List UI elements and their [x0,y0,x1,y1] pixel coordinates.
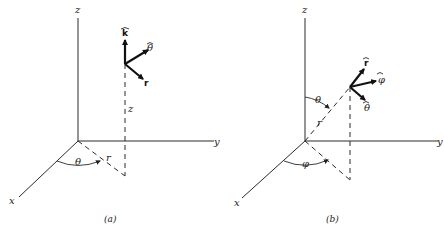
caption-b: (b) [326,214,339,224]
theta-hat-vector [125,50,148,64]
coordinate-diagram: z y x k θ r z r θ (a) z y x r φ θ θ [0,0,444,230]
k-hat-label: k [122,28,129,38]
caption-a: (a) [104,214,117,224]
x-axis-label: x [9,195,15,206]
panel-a: z y x k θ r z r θ (a) [9,4,220,224]
radius-r-label: r [317,117,323,128]
azimuth-phi-label: φ [302,158,309,169]
x-axis [242,141,305,198]
z-axis-label: z [74,4,81,15]
height-z-label: z [127,103,134,114]
polar-theta-label: θ [315,94,321,105]
radius-r-label: r [106,152,112,163]
phi-hat-label: φ [378,74,385,85]
theta-hat-label: θ [364,102,370,113]
radius-line [305,87,350,141]
theta-hat-vector [350,87,365,100]
panel-b: z y x r φ θ θ r φ (b) [234,4,443,224]
theta-angle-label: θ [75,156,81,167]
r-vector [125,64,143,79]
y-axis-label: y [213,136,220,147]
r-hat-label: r [364,58,369,68]
y-axis-label: y [436,136,443,147]
z-axis-label: z [301,4,308,15]
x-axis [19,141,78,197]
x-axis-label: x [234,197,240,208]
r-label: r [144,78,149,88]
radius-line [78,141,125,176]
